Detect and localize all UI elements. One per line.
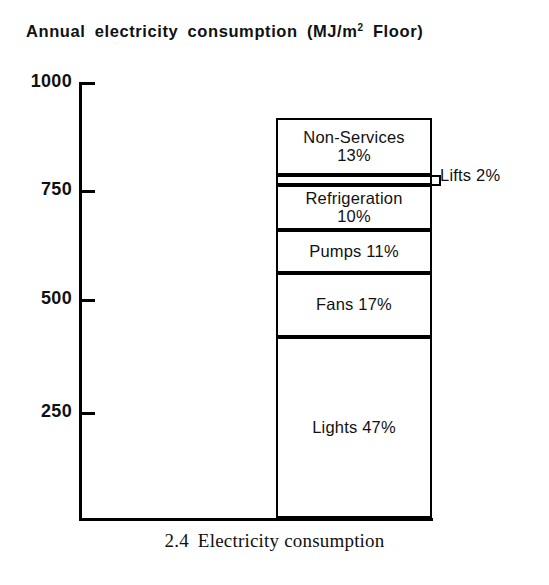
figure-caption: 2.4Electricity consumption [0, 530, 549, 552]
bar-segment-non-services[interactable]: Non-Services 13% [276, 118, 432, 175]
x-axis-baseline [79, 518, 433, 521]
lifts-callout-label: Lifts 2% [440, 166, 500, 185]
bar-segment-refrigeration[interactable]: Refrigeration 10% [276, 185, 432, 230]
y-tick-label-500-wrap: 500 [10, 288, 72, 310]
y-tick-label-250: 250 [16, 401, 72, 422]
y-tick-mark-1000 [82, 82, 95, 85]
bar-segment-pumps-label: Pumps 11% [309, 243, 399, 261]
y-tick-label-750-wrap: 750 [10, 179, 72, 201]
figure-caption-number: 2.4 [165, 530, 189, 551]
bar-segment-fans[interactable]: Fans 17% [276, 273, 432, 337]
y-tick-label-750: 750 [16, 179, 72, 200]
y-tick-label-500: 500 [16, 288, 72, 309]
figure-electricity-consumption: Annual electricity consumption (MJ/m2 Fl… [0, 0, 549, 585]
figure-caption-text: Electricity consumption [198, 530, 385, 551]
y-tick-mark-250 [82, 412, 95, 415]
bar-segment-pumps[interactable]: Pumps 11% [276, 230, 432, 273]
bar-segment-lights[interactable]: Lights 47% [276, 337, 432, 518]
y-tick-label-1000-wrap: 1000 [10, 71, 72, 93]
bar-segment-refrigeration-percent: 10% [337, 208, 371, 226]
plot-area: 1000 750 500 250 Non-Services 13% Refrig… [0, 0, 549, 585]
bar-segment-fans-label: Fans 17% [316, 296, 392, 314]
y-tick-label-1000: 1000 [16, 71, 72, 92]
bar-segment-lights-label: Lights 47% [312, 419, 396, 437]
bar-segment-non-services-label: Non-Services [303, 129, 404, 147]
y-tick-label-250-wrap: 250 [10, 401, 72, 423]
bar-segment-lifts[interactable] [276, 175, 432, 185]
bar-segment-refrigeration-label: Refrigeration [305, 190, 402, 208]
y-tick-mark-750 [82, 190, 95, 193]
stacked-bar: Non-Services 13% Refrigeration 10% Pumps… [276, 118, 432, 518]
bar-segment-non-services-percent: 13% [337, 147, 371, 165]
y-tick-mark-500 [82, 299, 95, 302]
